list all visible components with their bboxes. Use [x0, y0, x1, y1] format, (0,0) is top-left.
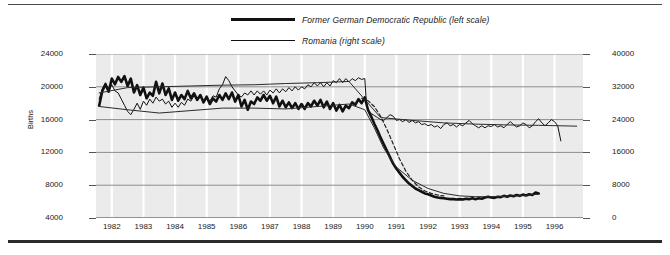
y-tick-mark-left — [89, 218, 96, 219]
y-tick-label-left: 4000 — [3, 213, 63, 223]
y-tick-mark-right — [583, 54, 590, 55]
x-tick-label: 1996 — [535, 222, 575, 231]
plot-svg — [96, 54, 583, 218]
y-tick-mark-right — [583, 218, 590, 219]
y-tick-label-right: 24000 — [612, 115, 670, 125]
y-tick-mark-right — [583, 152, 590, 153]
y-tick-label-right: 16000 — [612, 147, 670, 157]
top-rule — [8, 4, 662, 5]
y-tick-label-right: 40000 — [612, 49, 670, 59]
y-tick-label-left: 12000 — [3, 147, 63, 157]
legend-item-romania: Romania (right scale) — [231, 33, 591, 48]
legend-swatch-gdr-icon — [231, 18, 295, 22]
y-tick-mark-right — [583, 87, 590, 88]
plot-area — [96, 54, 583, 218]
y-tick-label-right: 32000 — [612, 82, 670, 92]
series-line — [362, 98, 444, 196]
chart-legend: Former German Democratic Republic (left … — [231, 12, 591, 48]
series-line — [99, 76, 539, 199]
y-tick-label-left: 8000 — [3, 180, 63, 190]
series-line — [99, 104, 539, 197]
y-tick-mark-right — [583, 185, 590, 186]
y-tick-mark-left — [89, 54, 96, 55]
y-tick-mark-left — [89, 152, 96, 153]
y-tick-label-right: 0 — [612, 213, 670, 223]
y-tick-mark-left — [89, 120, 96, 121]
bottom-rule — [8, 240, 662, 243]
chart-figure: Former German Democratic Republic (left … — [0, 0, 670, 255]
y-tick-mark-left — [89, 185, 96, 186]
y-tick-mark-right — [583, 120, 590, 121]
y-tick-label-left: 24000 — [3, 49, 63, 59]
y-tick-label-left: 20000 — [3, 82, 63, 92]
y-tick-mark-left — [89, 87, 96, 88]
y-tick-label-left: 16000 — [3, 115, 63, 125]
legend-item-gdr: Former German Democratic Republic (left … — [231, 12, 591, 27]
legend-swatch-romania-icon — [231, 40, 295, 41]
legend-label-gdr: Former German Democratic Republic (left … — [302, 15, 489, 25]
legend-label-romania: Romania (right scale) — [302, 36, 385, 46]
y-tick-label-right: 8000 — [612, 180, 670, 190]
